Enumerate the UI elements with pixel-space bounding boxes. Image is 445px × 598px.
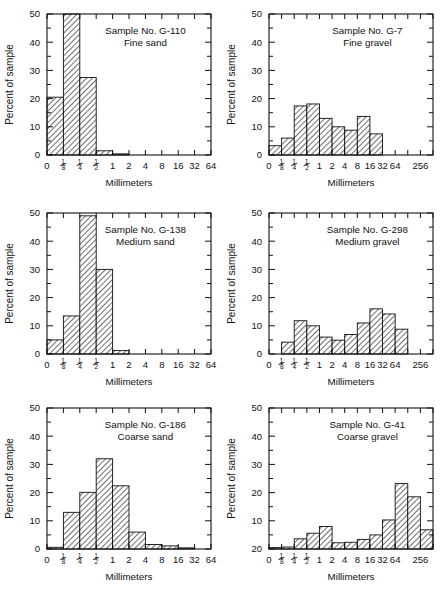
histogram-bar bbox=[395, 484, 408, 549]
x-axis-title: Millimeters bbox=[328, 177, 375, 188]
svg-text:16: 16 bbox=[173, 554, 184, 565]
svg-text:4: 4 bbox=[293, 558, 297, 565]
svg-text:16: 16 bbox=[173, 160, 184, 171]
panel-bottom-right: 01814121248163264256201020304050Sample N… bbox=[222, 394, 445, 593]
figure-histogram-grid: 0181412124816326401020304050Sample No. G… bbox=[0, 0, 445, 598]
svg-text:64: 64 bbox=[206, 160, 217, 171]
histogram-bar bbox=[96, 151, 112, 155]
sample-subtitle: Medium sand bbox=[116, 236, 175, 247]
svg-text:16: 16 bbox=[365, 359, 376, 370]
y-tick-label: 40 bbox=[251, 431, 262, 442]
y-axis-title: Percent of sample bbox=[4, 44, 15, 125]
histogram-bar bbox=[47, 97, 63, 155]
histogram-bar bbox=[294, 539, 307, 549]
y-tick-label: 20 bbox=[251, 93, 262, 104]
sample-subtitle: Coarse sand bbox=[118, 431, 174, 442]
histogram-bar bbox=[47, 340, 63, 354]
histogram-bar bbox=[63, 14, 79, 155]
histogram-chart: 0181412124816326401020304050Sample No. G… bbox=[0, 199, 223, 398]
y-axis-title: Percent of sample bbox=[226, 243, 237, 324]
histogram-bar bbox=[113, 486, 129, 549]
y-tick-label: 10 bbox=[251, 515, 262, 526]
svg-text:2: 2 bbox=[329, 160, 334, 171]
svg-text:8: 8 bbox=[62, 164, 66, 171]
svg-text:0: 0 bbox=[44, 554, 49, 565]
svg-text:1: 1 bbox=[317, 359, 322, 370]
histogram-bar bbox=[357, 116, 370, 155]
svg-text:2: 2 bbox=[126, 359, 131, 370]
sample-title: Sample No. G-41 bbox=[330, 419, 406, 430]
svg-text:2: 2 bbox=[95, 558, 99, 565]
histogram-bar bbox=[80, 216, 96, 354]
y-tick-label: 50 bbox=[251, 402, 262, 413]
svg-text:0: 0 bbox=[266, 359, 271, 370]
histogram-bar bbox=[96, 459, 112, 549]
y-tick-label: 10 bbox=[29, 320, 40, 331]
svg-text:1: 1 bbox=[110, 554, 115, 565]
panel-bottom-left: 0181412124816326401020304050Sample No. G… bbox=[0, 394, 223, 593]
y-tick-label: 20 bbox=[251, 292, 262, 303]
histogram-bar bbox=[370, 535, 383, 549]
panel-top-left: 0181412124816326401020304050Sample No. G… bbox=[0, 0, 223, 199]
panel-top-right: 0181412124816326425601020304050Sample No… bbox=[222, 0, 445, 199]
svg-text:32: 32 bbox=[189, 359, 200, 370]
svg-text:4: 4 bbox=[342, 359, 347, 370]
y-tick-label: 20 bbox=[251, 487, 262, 498]
svg-text:4: 4 bbox=[342, 160, 347, 171]
svg-text:32: 32 bbox=[377, 554, 388, 565]
y-tick-label: 20 bbox=[251, 543, 262, 554]
sample-title: Sample No. G-110 bbox=[105, 25, 186, 36]
histogram-chart: 0181412124816326401020304050Sample No. G… bbox=[0, 394, 223, 593]
svg-text:256: 256 bbox=[412, 359, 428, 370]
histogram-bar bbox=[357, 323, 370, 354]
bar-series bbox=[269, 104, 383, 155]
svg-text:64: 64 bbox=[390, 554, 401, 565]
y-tick-label: 30 bbox=[29, 264, 40, 275]
histogram-bar bbox=[420, 530, 433, 549]
y-tick-label: 30 bbox=[251, 65, 262, 76]
svg-text:8: 8 bbox=[355, 160, 360, 171]
svg-text:0: 0 bbox=[44, 359, 49, 370]
y-tick-label: 30 bbox=[29, 459, 40, 470]
y-tick-label: 50 bbox=[29, 207, 40, 218]
histogram-bar bbox=[307, 326, 320, 354]
y-tick-label: 40 bbox=[29, 236, 40, 247]
histogram-chart: 01814121248163264256201020304050Sample N… bbox=[222, 394, 445, 593]
svg-text:8: 8 bbox=[280, 363, 284, 370]
bar-series bbox=[269, 484, 433, 549]
svg-text:0: 0 bbox=[266, 160, 271, 171]
histogram-bar bbox=[332, 127, 345, 155]
svg-text:1: 1 bbox=[110, 160, 115, 171]
x-axis-title: Millimeters bbox=[328, 571, 375, 582]
panel-middle-right: 0181412124816326425601020304050Sample No… bbox=[222, 199, 445, 398]
y-tick-label: 30 bbox=[251, 459, 262, 470]
histogram-chart: 0181412124816326425601020304050Sample No… bbox=[222, 199, 445, 398]
y-tick-label: 0 bbox=[35, 543, 40, 554]
bar-series bbox=[282, 309, 408, 354]
histogram-bar bbox=[345, 542, 358, 549]
svg-text:8: 8 bbox=[62, 363, 66, 370]
sample-subtitle: Fine sand bbox=[124, 37, 167, 48]
y-axis-title: Percent of sample bbox=[4, 243, 15, 324]
svg-text:1: 1 bbox=[110, 359, 115, 370]
y-tick-label: 30 bbox=[29, 65, 40, 76]
sample-title: Sample No. G-138 bbox=[105, 224, 187, 235]
svg-text:16: 16 bbox=[173, 359, 184, 370]
svg-text:32: 32 bbox=[377, 359, 388, 370]
sample-title: Sample No. G-186 bbox=[105, 419, 187, 430]
y-tick-label: 10 bbox=[251, 121, 262, 132]
y-tick-label: 40 bbox=[251, 236, 262, 247]
svg-text:2: 2 bbox=[305, 363, 309, 370]
svg-text:4: 4 bbox=[143, 359, 148, 370]
svg-text:2: 2 bbox=[329, 359, 334, 370]
y-tick-label: 0 bbox=[257, 348, 262, 359]
y-tick-label: 20 bbox=[29, 93, 40, 104]
histogram-bar bbox=[395, 329, 408, 354]
histogram-bar bbox=[408, 497, 421, 549]
svg-text:32: 32 bbox=[189, 554, 200, 565]
svg-text:32: 32 bbox=[377, 160, 388, 171]
x-axis-title: Millimeters bbox=[328, 376, 375, 387]
svg-text:8: 8 bbox=[62, 558, 66, 565]
svg-text:32: 32 bbox=[189, 160, 200, 171]
histogram-bar bbox=[80, 492, 96, 549]
